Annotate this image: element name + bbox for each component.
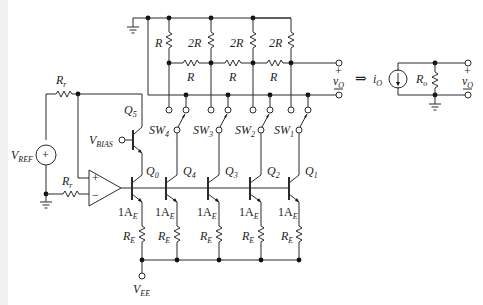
label-sw4: SW4 bbox=[149, 123, 169, 139]
label-re-q1: RE bbox=[280, 229, 293, 245]
switch-sw3 bbox=[216, 114, 227, 133]
label-re-q4: RE bbox=[157, 229, 170, 245]
label-2r-col3: 2R bbox=[188, 36, 202, 50]
label-r-top: R bbox=[154, 36, 163, 50]
vo-terminal-bottom bbox=[336, 92, 342, 98]
vref-plus: + bbox=[42, 148, 49, 162]
label-ae-q3: 1AE bbox=[197, 205, 217, 221]
opamp-minus-input: − bbox=[92, 188, 99, 202]
vee-terminal bbox=[139, 273, 145, 279]
label-q2: Q2 bbox=[267, 164, 280, 180]
label-q5: Q5 bbox=[124, 103, 137, 119]
transistor-q5 bbox=[119, 112, 142, 175]
norton-equivalent bbox=[389, 60, 471, 110]
label-r-series-1: R bbox=[186, 70, 195, 84]
switch-sw1 bbox=[296, 114, 307, 133]
label-vee: VEE bbox=[133, 282, 150, 298]
label-re-q2: RE bbox=[241, 229, 254, 245]
label-rr-top: Rr bbox=[55, 73, 67, 89]
label-q4: Q4 bbox=[183, 164, 196, 180]
opamp-plus-input: + bbox=[92, 171, 99, 185]
label-sw3: SW3 bbox=[193, 123, 213, 139]
ground-symbol-top bbox=[127, 18, 148, 33]
label-ae-q2: 1AE bbox=[239, 205, 259, 221]
switch-sw2 bbox=[258, 114, 269, 133]
transistor-q3 bbox=[208, 133, 219, 215]
label-q3: Q3 bbox=[225, 164, 238, 180]
label-vbias: VBIAS bbox=[89, 133, 113, 149]
transistor-q0 bbox=[132, 175, 142, 215]
label-ro: Ro bbox=[415, 72, 427, 88]
label-re-q3: RE bbox=[199, 229, 212, 245]
label-ae-q1: 1AE bbox=[278, 205, 298, 221]
label-re-q0: RE bbox=[122, 229, 135, 245]
label-vref: VREF bbox=[11, 148, 33, 164]
label-r-series-3: R bbox=[269, 70, 278, 84]
label-2r-col2: 2R bbox=[230, 36, 244, 50]
label-q0: Q0 bbox=[146, 164, 159, 180]
label-ae-q0: 1AE bbox=[118, 205, 138, 221]
label-sw2: SW2 bbox=[235, 123, 255, 139]
equivalence-arrow: ⇒ bbox=[355, 71, 367, 86]
transistor-q4 bbox=[166, 133, 177, 215]
transistor-q2 bbox=[250, 133, 261, 215]
transistor-q1 bbox=[289, 133, 299, 215]
label-ae-q4: 1AE bbox=[155, 205, 175, 221]
resistor-rr-bottom bbox=[46, 191, 89, 197]
label-sw1: SW1 bbox=[274, 123, 294, 139]
switch-terminals bbox=[166, 107, 311, 113]
label-rr-bottom: Rr bbox=[61, 174, 73, 190]
label-io: iO bbox=[373, 72, 382, 88]
circuit-diagram: R 2R 2R 2R R R R bbox=[0, 0, 483, 305]
label-r-series-2: R bbox=[228, 70, 237, 84]
label-q1: Q1 bbox=[305, 164, 318, 180]
label-2r-col1: 2R bbox=[269, 36, 283, 50]
switch-sw4 bbox=[174, 114, 185, 133]
